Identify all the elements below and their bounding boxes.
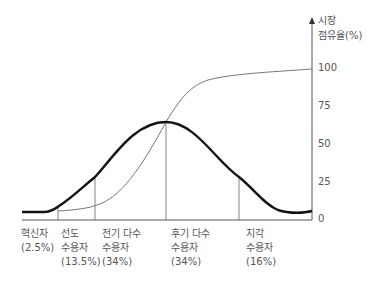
y-tick-50: 50 (318, 138, 331, 149)
category-late-majority: 후기 다수 수용자 (34%) (171, 227, 210, 269)
category-early-majority: 전기 다수 수용자 (34%) (102, 227, 141, 269)
cumulative-curve (58, 69, 312, 211)
y-axis-label-line2: 점유율(%) (318, 29, 362, 43)
category-laggards: 지각 수용자 (16%) (246, 227, 276, 269)
category-early-adopters: 선도 수용자 (13.5%) (61, 227, 101, 269)
y-tick-0: 0 (318, 213, 324, 224)
y-tick-100: 100 (318, 62, 337, 73)
y-axis-arrow-icon (309, 17, 315, 24)
bell-curve (22, 122, 312, 213)
y-tick-75: 75 (318, 100, 331, 111)
y-tick-25: 25 (318, 176, 331, 187)
y-axis-label-line1: 시장 (318, 14, 336, 28)
category-innovators: 혁신자 (2.5%) (21, 227, 54, 255)
